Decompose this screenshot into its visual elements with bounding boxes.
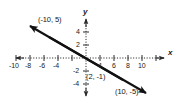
graph-figure: x y -10 -8 -6 -4 4 6 8 10 4 2 -2 -4 (-10… [0, 0, 178, 103]
point-label-middle: (2, -1) [86, 73, 105, 81]
y-tick-label-neg4: -4 [73, 80, 79, 87]
x-tick-label-neg6: -6 [39, 62, 45, 69]
plotted-line [30, 26, 146, 93]
coordinate-plane-svg [0, 0, 178, 103]
x-axis-label: x [168, 49, 172, 57]
point-label-upper-left: (-10, 5) [38, 16, 61, 24]
x-tick-label-neg8: -8 [25, 62, 31, 69]
y-tick-label-neg2: -2 [73, 67, 79, 74]
point-label-lower-right: (10, -5) [115, 88, 138, 96]
x-tick-label-8: 8 [126, 62, 130, 69]
y-tick-label-4: 4 [76, 28, 80, 35]
y-tick-label-2: 2 [76, 41, 80, 48]
x-tick-label-10: 10 [138, 62, 146, 69]
y-axis-label: y [83, 8, 87, 16]
x-tick-label-4: 4 [98, 62, 102, 69]
x-tick-label-neg10: -10 [9, 62, 19, 69]
x-tick-label-neg4: -4 [53, 62, 59, 69]
x-tick-label-6: 6 [112, 62, 116, 69]
